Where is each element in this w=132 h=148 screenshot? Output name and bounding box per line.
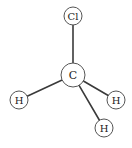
molecule-svg: ClCHHH — [0, 0, 132, 148]
atom-label: H — [112, 95, 121, 106]
bond-c-h_bottom — [79, 85, 99, 120]
atom-h-left: H — [10, 91, 28, 109]
atom-label: H — [100, 123, 109, 134]
molecule-diagram: ClCHHH — [0, 0, 132, 148]
atom-h-bottom: H — [95, 119, 113, 137]
atom-h-right: H — [107, 91, 125, 109]
atoms-layer: ClCHHH — [10, 7, 125, 137]
bond-c-h_right — [83, 81, 108, 95]
atom-c: C — [61, 63, 85, 87]
atom-label: H — [15, 95, 24, 106]
atom-label: C — [69, 69, 77, 82]
bond-c-h_left — [27, 80, 62, 96]
atom-cl: Cl — [64, 7, 82, 25]
atom-label: Cl — [68, 11, 79, 22]
